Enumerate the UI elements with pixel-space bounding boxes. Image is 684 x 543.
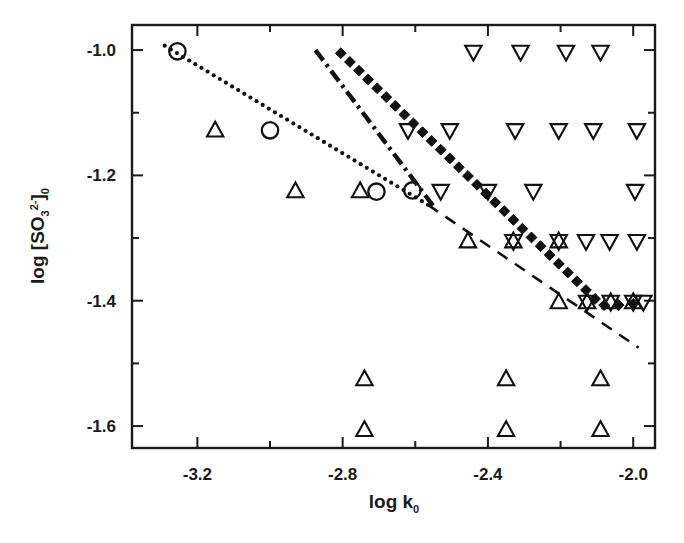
scatter-plot-svg: -3.2-2.8-2.4-2.0-1.0-1.2-1.4-1.6 log k0 … xyxy=(0,0,684,543)
dot-segment xyxy=(230,84,234,88)
x-tick-label: -3.2 xyxy=(183,465,212,484)
dot-segment xyxy=(377,173,381,177)
dot-segment xyxy=(371,169,375,173)
dot-segment xyxy=(242,92,246,96)
x-tick-label: -2.4 xyxy=(473,465,503,484)
dot-segment xyxy=(395,184,399,188)
y-tick-label: -1.6 xyxy=(87,417,116,436)
dot-segment xyxy=(340,151,344,155)
dot-segment xyxy=(303,129,307,133)
dot-segment xyxy=(352,158,356,162)
dot-segment xyxy=(328,144,332,148)
dot-segment xyxy=(175,51,179,55)
dot-segment xyxy=(285,118,289,122)
x-tick-label: -2.0 xyxy=(619,465,648,484)
dot-segment xyxy=(224,81,228,85)
dot-segment xyxy=(163,44,167,48)
dot-segment xyxy=(291,121,295,125)
chart-figure: -3.2-2.8-2.4-2.0-1.0-1.2-1.4-1.6 log k0 … xyxy=(0,0,684,543)
dot-segment xyxy=(205,69,209,73)
dot-segment xyxy=(193,62,197,66)
dot-segment xyxy=(199,66,203,70)
dot-segment xyxy=(261,103,265,107)
dot-segment xyxy=(187,58,191,62)
dot-segment xyxy=(322,140,326,144)
dot-segment xyxy=(254,99,258,103)
dot-segment xyxy=(365,166,369,170)
y-tick-label: -1.0 xyxy=(87,41,116,60)
x-tick-label: -2.8 xyxy=(328,465,357,484)
dot-segment xyxy=(279,114,283,118)
dot-segment xyxy=(346,155,350,159)
dot-segment xyxy=(334,147,338,151)
y-tick-label: -1.4 xyxy=(87,292,117,311)
dot-segment xyxy=(383,177,387,181)
dot-segment xyxy=(212,73,216,77)
dot-segment xyxy=(359,162,363,166)
dot-segment xyxy=(267,107,271,111)
dot-segment xyxy=(236,88,240,92)
dot-segment xyxy=(408,192,412,196)
dot-segment xyxy=(420,199,424,203)
dot-segment xyxy=(389,181,393,185)
figure-background xyxy=(0,0,684,543)
x-axis-label: log k0 xyxy=(369,491,419,515)
dot-segment xyxy=(218,77,222,81)
dot-segment xyxy=(248,95,252,99)
dot-segment xyxy=(297,125,301,129)
dot-segment xyxy=(273,110,277,114)
dot-segment xyxy=(316,136,320,140)
y-tick-label: -1.2 xyxy=(87,166,116,185)
dot-segment xyxy=(310,132,314,136)
